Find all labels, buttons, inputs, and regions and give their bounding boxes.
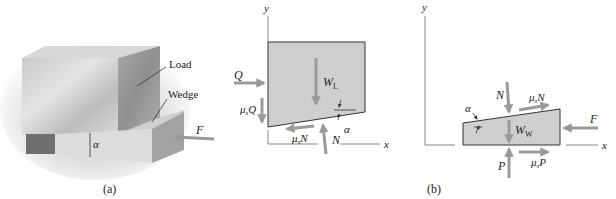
wedge-label: Wedge: [168, 88, 198, 100]
wedge-free-body-diagram: y x N μsN WW F P μsP α (b): [421, 1, 607, 196]
svg-text:μsP: μsP: [530, 156, 546, 170]
caption-a: (a): [103, 182, 116, 196]
force-label-N: N: [331, 133, 341, 147]
load-free-body-diagram: y x WL Q μsQ μsN N α: [234, 2, 389, 154]
gap-shadow: [26, 134, 55, 154]
friction-arrow-muN: [287, 126, 314, 129]
angle-label-alpha-wedge: α: [465, 102, 471, 114]
force-arrow-F: [175, 137, 214, 139]
svg-text:μsQ: μsQ: [239, 103, 256, 117]
load-block-front: [22, 58, 118, 134]
svg-text:μsN: μsN: [291, 132, 308, 146]
angle-label-alpha-load: α: [344, 123, 350, 135]
force-label-Q: Q: [234, 68, 243, 82]
panel-a-photo: α Load Wedge F (a): [0, 40, 214, 196]
angle-label-alpha: α: [93, 138, 99, 150]
force-label-P: P: [497, 159, 506, 173]
x-axis-label-wedge: x: [601, 139, 607, 151]
y-axis-label: y: [263, 2, 269, 14]
caption-b: (b): [427, 182, 441, 196]
friction-arrow-muN-wedge: [519, 105, 548, 110]
force-label-N-wedge: N: [495, 88, 505, 102]
force-label-F-wedge: F: [589, 112, 598, 126]
normal-arrow-N-wedge: [507, 82, 509, 112]
x-axis-label: x: [383, 138, 389, 150]
normal-arrow-N: [323, 125, 326, 154]
load-label: Load: [169, 58, 192, 70]
y-axis-label-wedge: y: [421, 1, 427, 13]
svg-text:μsN: μsN: [528, 91, 545, 105]
wedge-figure: α Load Wedge F (a) y x WL Q μsQ μsN: [0, 0, 616, 199]
force-label-F: F: [195, 123, 204, 137]
